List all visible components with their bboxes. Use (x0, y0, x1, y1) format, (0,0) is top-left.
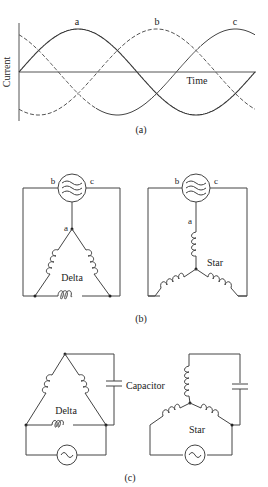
capacitor-wire-top (65, 354, 114, 381)
star-left-wire-bottom (148, 288, 161, 296)
delta-right-wire-bottom (94, 274, 110, 296)
inductor-coil-icon (192, 232, 197, 256)
ac-wave-symbol (62, 181, 82, 195)
terminal-c-label: c (214, 176, 218, 186)
caption-b: (b) (135, 313, 147, 325)
panel-b-star-circuit: b c a Star (b) (135, 174, 247, 325)
star-label: Star (189, 424, 206, 435)
inductor-coil-icon (42, 375, 52, 393)
panel-c-delta-circuit: Capacitor Delta (25, 353, 166, 466)
star-left-wire (184, 269, 196, 277)
wire-c-right (210, 188, 247, 296)
inductor-coil-icon (86, 250, 98, 274)
delta-left-wire-bottom (35, 274, 50, 296)
terminal-b-label: b (51, 176, 56, 186)
star-right-wire-bottom (231, 288, 247, 296)
capacitor-wire-bottom (232, 389, 240, 425)
wire-b-left (148, 188, 182, 296)
inductor-coil-icon (163, 404, 180, 416)
y-axis-label: Current (1, 57, 12, 88)
panel-b-delta-circuit: b c a Delta (23, 174, 120, 299)
delta-right-wire-bottom (85, 393, 106, 425)
source-wire-left (26, 425, 57, 455)
star-right-wire (190, 403, 201, 408)
caption-a: (a) (135, 124, 146, 136)
inductor-coil-icon (201, 404, 218, 416)
node-a-label: a (64, 223, 68, 233)
star-right-wire (196, 269, 208, 277)
inductor-coil-icon (58, 291, 72, 299)
inductor-coil-icon (161, 273, 184, 288)
star-right-wire-bottom (207, 416, 232, 455)
node (231, 424, 234, 427)
inductor-coil-icon (46, 250, 58, 274)
capacitor-wire-bottom (106, 386, 114, 425)
capacitor-wire-top (189, 354, 240, 383)
delta-label: Delta (55, 405, 77, 416)
star-left-wire (180, 403, 190, 408)
three-phase-figure: a b c Time Current (a) b c a Delta (0, 0, 268, 487)
ac-wave-symbol (189, 453, 201, 458)
star-label: Star (207, 257, 224, 268)
delta-left-wire-top (52, 354, 65, 375)
ac-wave-symbol (61, 453, 73, 458)
caption-c: (c) (124, 472, 135, 484)
terminal-b-label: b (175, 176, 180, 186)
wire-b-left (23, 188, 58, 296)
delta-left-wire-bottom (26, 393, 46, 425)
panel-c-star-circuit: Star (c) (124, 354, 248, 484)
wire-c-right (86, 188, 120, 296)
inductor-coil-icon (52, 421, 63, 428)
source-wire-right (77, 425, 106, 455)
node (109, 295, 112, 298)
delta-label: Delta (61, 272, 83, 283)
inductor-coil-icon (208, 273, 231, 288)
terminal-c-label: c (90, 176, 94, 186)
node (34, 295, 37, 298)
inductor-coil-icon (79, 375, 89, 393)
star-left-wire-bottom (150, 416, 183, 455)
curve-b-label: b (155, 16, 160, 27)
capacitor-label: Capacitor (126, 380, 166, 391)
ac-wave-symbol (186, 181, 206, 195)
curve-a-label: a (75, 16, 80, 27)
inductor-coil-icon (185, 366, 190, 396)
curve-c-label: c (233, 16, 238, 27)
delta-right-wire-top (65, 354, 79, 375)
delta-right-wire-top (72, 229, 86, 250)
panel-a-waveforms: a b c Time Current (a) (1, 16, 256, 136)
x-axis-label: Time (187, 75, 208, 86)
node-a-label: a (188, 216, 192, 226)
